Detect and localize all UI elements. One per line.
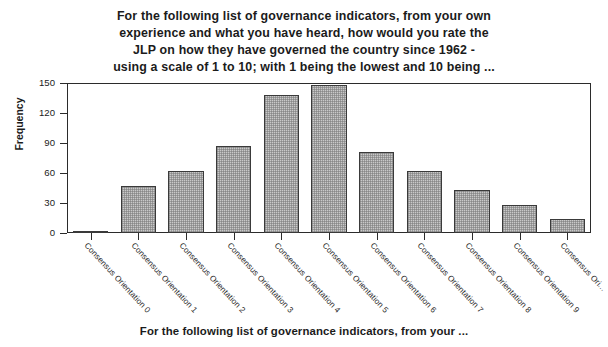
bar [311, 85, 346, 233]
bar [502, 205, 537, 233]
bar [407, 171, 442, 233]
chart-title-line-3: JLP on how they have governed the countr… [0, 42, 608, 59]
chart-title: For the following list of governance ind… [0, 8, 608, 76]
bar [216, 146, 251, 233]
chart-page: For the following list of governance ind… [0, 0, 608, 347]
x-tick-mark [472, 233, 473, 240]
bar [454, 190, 489, 233]
x-tick-mark [281, 233, 282, 240]
y-tick-mark [60, 203, 67, 204]
chart-title-line-1: For the following list of governance ind… [0, 8, 608, 25]
bar [550, 219, 585, 233]
x-tick-mark [138, 233, 139, 240]
bar [168, 171, 203, 233]
x-tick-mark [424, 233, 425, 240]
x-tick-mark [91, 233, 92, 240]
y-tick-label: 120 [39, 107, 55, 118]
y-tick-label: 30 [44, 197, 55, 208]
x-tick-mark [567, 233, 568, 240]
y-tick-mark [60, 113, 67, 114]
x-tick-mark [520, 233, 521, 240]
x-axis-title: For the following list of governance ind… [0, 325, 608, 337]
y-tick-label: 90 [44, 137, 55, 148]
x-tick-mark [186, 233, 187, 240]
y-tick-label: 0 [50, 227, 55, 238]
x-tick-mark [234, 233, 235, 240]
x-tick-mark [329, 233, 330, 240]
chart-title-line-4: using a scale of 1 to 10; with 1 being t… [0, 59, 608, 76]
y-tick-mark [60, 173, 67, 174]
y-tick-mark [60, 233, 67, 234]
y-tick-label: 150 [39, 77, 55, 88]
bar [121, 186, 156, 233]
x-tick-label: Consensus Ori... [559, 241, 608, 293]
y-axis-title: Frequency [13, 79, 25, 169]
x-tick-mark [377, 233, 378, 240]
bar [359, 152, 394, 233]
chart-title-line-2: experience and what you have heard, how … [0, 25, 608, 42]
y-tick-mark [60, 143, 67, 144]
y-tick-mark [60, 83, 67, 84]
y-tick-label: 60 [44, 167, 55, 178]
bar-series [67, 83, 591, 233]
bar [264, 95, 299, 233]
